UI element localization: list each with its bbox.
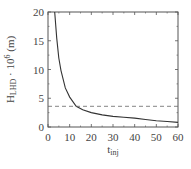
axis-ticks xyxy=(48,12,178,127)
plot-frame xyxy=(48,12,178,127)
y-tick-label: 0 xyxy=(39,121,45,133)
plot-border xyxy=(48,12,178,127)
x-tick-label: 0 xyxy=(45,131,51,143)
y-tick-label: 20 xyxy=(33,6,45,18)
data-series xyxy=(48,12,178,122)
y-tick-label: 5 xyxy=(39,92,45,104)
chart: 010203040506005101520 tinj HLHD · 106 (m… xyxy=(0,0,191,169)
curve-line xyxy=(55,12,178,122)
y-axis-label: HLHD · 106 (m) xyxy=(3,36,18,104)
x-tick-label: 10 xyxy=(64,131,76,143)
x-tick-label: 40 xyxy=(129,131,141,143)
x-tick-label: 30 xyxy=(108,131,120,143)
x-tick-label: 50 xyxy=(151,131,163,143)
x-tick-label: 60 xyxy=(173,131,185,143)
x-tick-label: 20 xyxy=(86,131,98,143)
y-tick-label: 15 xyxy=(33,35,45,47)
x-axis-label: tinj xyxy=(107,143,119,157)
y-tick-label: 10 xyxy=(33,64,45,76)
